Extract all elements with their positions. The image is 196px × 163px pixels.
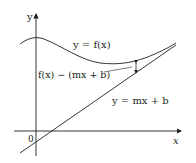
y-axis-label: y [26,11,33,22]
asymptote-diagram: y x 0 y = f(x) y = mx + b f(x) − (mx + b… [0,0,196,163]
origin-label: 0 [28,134,34,144]
line-label: y = mx + b [111,95,169,106]
difference-label: f(x) − (mx + b) [38,69,110,80]
x-axis-label: x [173,135,179,146]
function-label: y = f(x) [72,39,111,50]
